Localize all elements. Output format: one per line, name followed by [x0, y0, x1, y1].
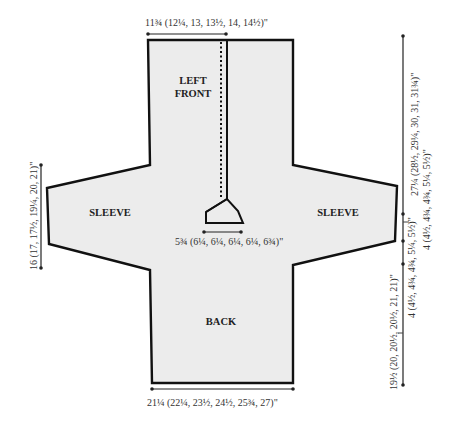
left-front-label-line2: FRONT [170, 87, 216, 100]
top-width-label: 11¾ (12¼, 13, 13½, 14, 14½)" [145, 17, 268, 28]
lower-sleeve-label: 4 (4½, 4¾, 4¾, 5¼, 5½)" [406, 217, 417, 318]
sleeve-cuff-measure [39, 163, 43, 270]
right-length-measure [398, 34, 409, 387]
upper-sleeve-label: 4 (4½, 4¾, 4¾, 5¼, 5½)" [421, 149, 432, 250]
right-sleeve-label: SLEEVE [308, 206, 368, 219]
neck-width-label: 5¾ (6¼, 6¼, 6¼, 6¼, 6¾)" [175, 236, 283, 247]
bottom-width-measure [150, 387, 295, 391]
sleeve-cuff-label: 16 (17, 17½, 19¼, 20, 21)" [28, 162, 39, 270]
total-length-label: 27¼ (28½, 29¼, 30, 31, 31¾)" [409, 73, 420, 196]
schematic-drawing [0, 0, 449, 429]
back-label: BACK [196, 315, 246, 328]
top-width-measure [146, 32, 228, 36]
bottom-width-label: 21¼ (22¼, 23½, 24½, 25¾, 27)" [147, 397, 278, 408]
left-front-label: LEFT FRONT [170, 74, 216, 100]
left-sleeve-label: SLEEVE [80, 206, 140, 219]
body-length-label: 19½ (20, 20½, 20½, 21, 21)" [388, 274, 399, 390]
left-front-label-line1: LEFT [170, 74, 216, 87]
